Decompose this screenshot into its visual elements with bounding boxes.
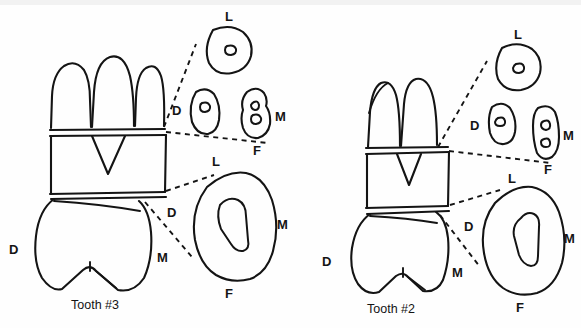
tooth-3-canal-distal <box>200 102 210 112</box>
tooth-3-crown-occlusal-fold <box>96 271 116 288</box>
tooth-2-crown-section-label-distal: D <box>464 220 473 233</box>
tooth-3-section-mesial-root <box>242 89 271 138</box>
tooth-3-root-section-label-distal: D <box>172 104 181 117</box>
tooth-3-cervical-line-lower <box>50 192 165 194</box>
tooth-3-cervical-line-lower-2 <box>51 197 166 199</box>
tooth-2-section-distal-root <box>489 104 516 144</box>
tooth-2-root-mesial <box>401 79 437 146</box>
tooth-3-root-distal <box>51 63 91 128</box>
tooth-3-crown-section-label-mesial: M <box>277 218 288 231</box>
tooth-2-root-section-label-facial: F <box>544 163 552 176</box>
tooth-2-canal-mesiolingual <box>541 138 550 147</box>
tooth-3-section-lingual-root <box>207 27 252 74</box>
tooth-2-cervical-line-upper-2 <box>366 152 449 154</box>
tooth-3-crown-section-label-distal: D <box>167 206 176 219</box>
dental-line-art <box>0 0 581 328</box>
tooth-2-canal-mesiobuccal <box>541 120 550 130</box>
tooth-3-longitudinal-label-distal: D <box>9 243 18 256</box>
tooth-2-root-section-label-mesial: M <box>563 129 574 142</box>
tooth-2-longitudinal-label-mesial: M <box>452 266 463 279</box>
tooth-3-longitudinal-label-mesial: M <box>157 251 168 264</box>
tooth-2-crown-outline <box>351 212 448 293</box>
tooth-2-longitudinal-label-distal: D <box>322 255 331 268</box>
tooth-3-root-section-label-mesial: M <box>275 110 286 123</box>
tooth-3-root-section-label-lingual: L <box>225 10 233 23</box>
tooth-2-crown-section-label-lingual: L <box>508 172 516 185</box>
tooth-3-crown-cervical-curve <box>54 201 140 211</box>
tooth-3-crown-section-outline <box>194 173 276 281</box>
tooth-2-canal-lingual <box>513 63 524 73</box>
tooth-2-leader-root-upper <box>438 61 487 147</box>
tooth-2-crown-section-label-facial: F <box>516 301 524 314</box>
tooth-3-crown-outline <box>35 199 151 291</box>
tooth-2-crown-occlusal-fold <box>408 277 425 290</box>
tooth-2-canal-distal <box>495 117 505 126</box>
tooth-3-furcation-notch <box>92 136 125 174</box>
tooth-3-root-cross-sections <box>191 27 270 138</box>
tooth-3-canal-mesiolingual <box>251 114 261 124</box>
tooth-3-root-middle <box>92 56 134 127</box>
tooth-3-root-mesial <box>135 66 164 126</box>
tooth-3-cervical-line-upper <box>50 129 165 130</box>
tooth-3-cervical-line-upper-2 <box>50 135 166 136</box>
tooth-3-crown-section-label-facial: F <box>225 287 233 300</box>
tooth-3-canal-lingual <box>225 45 236 55</box>
tooth-2-cervical-line-lower <box>366 206 448 208</box>
tooth-2-root-distal <box>368 82 400 147</box>
tooth-2-crown-section-outline <box>483 187 565 295</box>
tooth-2-cervical-line-upper <box>366 147 448 148</box>
tooth-3-crown-section-label-lingual: L <box>212 155 220 168</box>
tooth-3-crown-pulp-chamber <box>218 199 248 251</box>
tooth-2-root-section-label-lingual: L <box>514 28 522 41</box>
tooth-2-crown-pulp-chamber <box>514 213 540 266</box>
tooth-3-crown-cross-section <box>194 173 276 281</box>
tooth-3-canal-mesiobuccal <box>251 101 259 110</box>
tooth-2-root-cross-sections <box>489 44 559 159</box>
tooth-2-section-lingual-root <box>496 44 540 90</box>
tooth-2-furcation-notch <box>397 154 421 185</box>
tooth-3-name-label: Tooth #3 <box>71 299 119 312</box>
tooth-2-root-section-label-distal: D <box>470 119 479 132</box>
tooth-2-leader-crown-lower <box>440 215 480 267</box>
tooth-2-name-label: Tooth #2 <box>367 303 415 316</box>
tooth-2-crown-cross-section <box>483 187 565 295</box>
tooth-2-leader-crown-upper <box>450 190 500 205</box>
tooth-2-crown-cervical-curve <box>370 216 437 223</box>
tooth-3-longitudinal-view <box>35 44 268 291</box>
tooth-2-crown-section-label-mesial: M <box>564 232 575 245</box>
tooth-2-leader-root-lower <box>449 151 551 163</box>
dental-anatomy-figure: D L D M F L D M F M Tooth #3 D L D M F L… <box>0 0 581 328</box>
tooth-3-middle-band <box>51 135 166 194</box>
tooth-3-root-section-label-facial: F <box>253 144 261 157</box>
tooth-2-section-mesial-root <box>533 106 559 159</box>
